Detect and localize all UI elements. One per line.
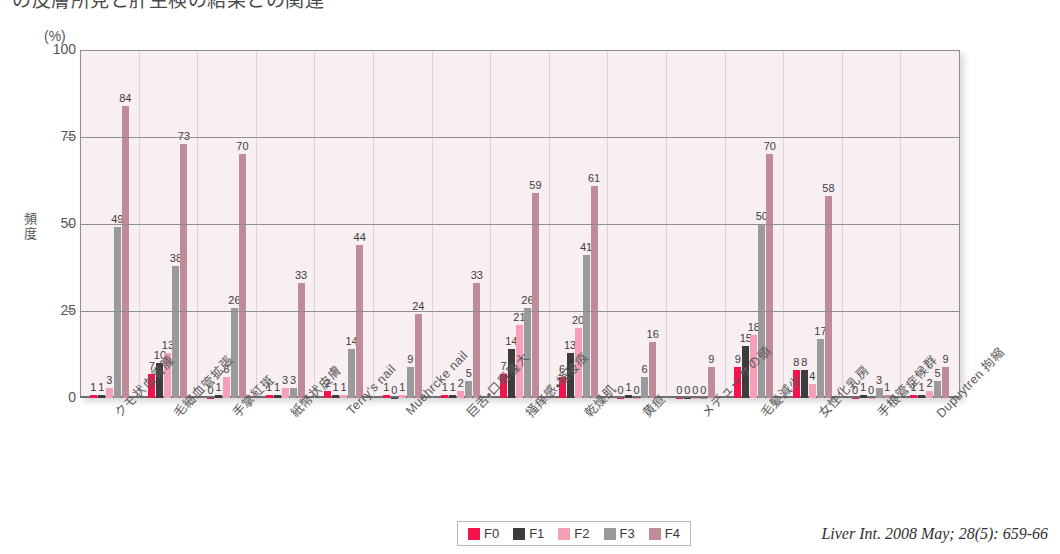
bar[interactable]: 1 xyxy=(383,395,390,398)
legend-swatch xyxy=(468,528,480,540)
bar[interactable]: 38 xyxy=(172,266,179,398)
page-title-text: の皮膚所見と肝生検の結果との関連 xyxy=(0,0,1060,14)
y-tick-label: 75 xyxy=(36,128,76,144)
x-label-cell: Terry's nail xyxy=(315,402,374,522)
bar[interactable]: 9 xyxy=(407,367,414,398)
bar-value-label: 9 xyxy=(708,354,714,365)
bar[interactable]: 0 xyxy=(207,398,214,399)
bar-value-label: 70 xyxy=(236,141,248,152)
bar[interactable]: 0 xyxy=(676,398,683,399)
gridline xyxy=(80,137,959,138)
bar[interactable]: 6 xyxy=(641,377,648,398)
bar[interactable]: 14 xyxy=(348,349,355,398)
legend-item[interactable]: F2 xyxy=(558,526,589,541)
y-tick-mark xyxy=(66,311,73,312)
bar[interactable]: 5 xyxy=(934,381,941,398)
bar[interactable]: 41 xyxy=(583,255,590,398)
bar[interactable]: 1 xyxy=(918,395,925,398)
bar[interactable]: 0 xyxy=(633,398,640,399)
bar[interactable]: 0 xyxy=(692,398,699,399)
x-label-cell: 毛細血管拡張 xyxy=(139,402,198,522)
bar[interactable]: 0 xyxy=(391,398,398,399)
bar[interactable]: 33 xyxy=(473,283,480,398)
group-separator xyxy=(900,50,901,398)
bar[interactable]: 49 xyxy=(114,227,121,398)
bar[interactable]: 1 xyxy=(625,395,632,398)
bar-value-label: 0 xyxy=(692,385,698,396)
bar[interactable]: 6 xyxy=(223,377,230,398)
bar[interactable]: 1 xyxy=(98,395,105,398)
bar[interactable]: 1 xyxy=(90,395,97,398)
bar-value-label: 2 xyxy=(458,378,464,389)
bar-value-label: 59 xyxy=(529,180,541,191)
group-separator xyxy=(666,50,667,398)
bar-value-label: 58 xyxy=(822,183,834,194)
y-tick-label: 100 xyxy=(36,41,76,57)
y-tick-mark xyxy=(66,224,73,225)
group-separator xyxy=(607,50,608,398)
x-label-cell: 女性化乳房 xyxy=(784,402,843,522)
legend-item[interactable]: F1 xyxy=(513,526,544,541)
bar[interactable]: 1 xyxy=(274,395,281,398)
bar[interactable]: 61 xyxy=(591,186,598,398)
x-label-cell: 毛髪減少 xyxy=(725,402,784,522)
bar-value-label: 1 xyxy=(98,382,104,393)
bar-value-label: 1 xyxy=(399,382,405,393)
x-label-cell: 紙幣状皮膚 xyxy=(256,402,315,522)
bar-value-label: 3 xyxy=(876,375,882,386)
bar[interactable]: 17 xyxy=(817,339,824,398)
group-separator xyxy=(139,50,140,398)
bar[interactable]: 1 xyxy=(332,395,339,398)
bar-value-label: 70 xyxy=(764,141,776,152)
legend-item[interactable]: F0 xyxy=(468,526,499,541)
bar[interactable]: 1 xyxy=(399,395,406,398)
bar[interactable]: 84 xyxy=(122,106,129,398)
group-separator xyxy=(314,50,315,398)
bar[interactable]: 3 xyxy=(282,388,289,398)
bar[interactable]: 70 xyxy=(766,154,773,398)
bar[interactable]: 1 xyxy=(910,395,917,398)
bar[interactable]: 1 xyxy=(215,395,222,398)
bar-value-label: 3 xyxy=(106,375,112,386)
bar[interactable]: 1 xyxy=(860,395,867,398)
bar[interactable]: 0 xyxy=(868,398,875,399)
bar-value-label: 5 xyxy=(466,368,472,379)
gridline xyxy=(80,50,959,51)
bar[interactable]: 70 xyxy=(239,154,246,398)
x-label-cell: 手掌紅斑 xyxy=(197,402,256,522)
group-separator xyxy=(373,50,374,398)
bar[interactable]: 1 xyxy=(266,395,273,398)
bar[interactable]: 73 xyxy=(180,144,187,398)
bar[interactable]: 58 xyxy=(825,196,832,398)
bar[interactable]: 4 xyxy=(809,384,816,398)
bar-value-label: 2 xyxy=(927,378,933,389)
bar[interactable]: 44 xyxy=(356,245,363,398)
bar[interactable]: 26 xyxy=(231,308,238,398)
bar[interactable]: 1 xyxy=(449,395,456,398)
x-label-cell: 手根管症候群 xyxy=(843,402,902,522)
chart-legend: F0F1F2F3F4 xyxy=(457,521,691,546)
x-axis-labels: クモ状血管腫毛細血管拡張手掌紅斑紙幣状皮膚Terry's nailMuehrck… xyxy=(80,402,960,522)
bar[interactable]: 1 xyxy=(340,395,347,398)
group-separator xyxy=(783,50,784,398)
bar[interactable]: 3 xyxy=(106,388,113,398)
bar-value-label: 0 xyxy=(676,385,682,396)
legend-item[interactable]: F4 xyxy=(649,526,680,541)
bar-value-label: 1 xyxy=(90,382,96,393)
bar-value-label: 1 xyxy=(341,382,347,393)
bar[interactable]: 2 xyxy=(926,391,933,398)
bar[interactable]: 24 xyxy=(415,314,422,398)
bar-value-label: 1 xyxy=(626,382,632,393)
y-tick-mark xyxy=(66,137,73,138)
bar[interactable]: 33 xyxy=(298,283,305,398)
bar[interactable]: 0 xyxy=(852,398,859,399)
bar[interactable]: 1 xyxy=(441,395,448,398)
legend-label: F3 xyxy=(620,526,635,541)
legend-item[interactable]: F3 xyxy=(604,526,635,541)
bar[interactable]: 2 xyxy=(457,391,464,398)
bar[interactable]: 0 xyxy=(684,398,691,399)
bar-value-label: 4 xyxy=(809,371,815,382)
bar[interactable]: 0 xyxy=(617,398,624,399)
bar-value-label: 84 xyxy=(119,93,131,104)
group-separator xyxy=(490,50,491,398)
